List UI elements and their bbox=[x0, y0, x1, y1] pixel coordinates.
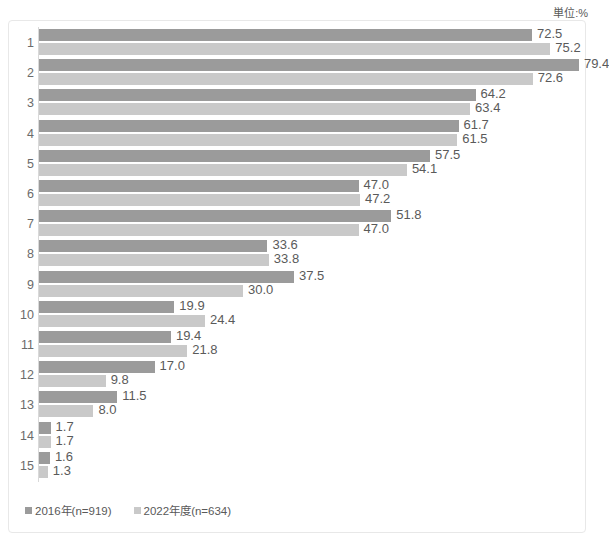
chart-row: 172.575.2 bbox=[9, 28, 587, 58]
bar-series-a[interactable] bbox=[39, 120, 459, 132]
bar-value-label: 47.0 bbox=[364, 179, 389, 191]
category-label: 1 bbox=[9, 28, 34, 58]
category-label: 2 bbox=[9, 58, 34, 88]
chart-row: 1119.421.8 bbox=[9, 330, 587, 360]
category-label: 8 bbox=[9, 239, 34, 269]
chart-row: 364.263.4 bbox=[9, 88, 587, 118]
category-label: 14 bbox=[9, 421, 34, 451]
bar-group: 79.472.6 bbox=[39, 58, 587, 88]
chart-row: 751.847.0 bbox=[9, 209, 587, 239]
bar-series-b[interactable] bbox=[39, 164, 407, 176]
category-label: 6 bbox=[9, 179, 34, 209]
bar-group: 1.71.7 bbox=[39, 421, 587, 451]
bar-series-a[interactable] bbox=[39, 150, 430, 162]
bar-series-b[interactable] bbox=[39, 254, 269, 266]
chart-legend: 2016年(n=919)2022年度(n=634) bbox=[25, 502, 231, 518]
chart-row: 279.472.6 bbox=[9, 58, 587, 88]
bar-series-a[interactable] bbox=[39, 180, 359, 192]
bar-group: 11.58.0 bbox=[39, 390, 587, 420]
bar-value-label: 54.1 bbox=[412, 163, 437, 175]
bar-value-label: 37.5 bbox=[299, 270, 324, 282]
bar-group: 33.633.8 bbox=[39, 239, 587, 269]
category-label: 9 bbox=[9, 270, 34, 300]
bar-series-b[interactable] bbox=[39, 194, 360, 206]
bar-value-label: 72.5 bbox=[537, 28, 562, 40]
bar-value-label: 1.6 bbox=[55, 451, 73, 463]
bar-series-b[interactable] bbox=[39, 224, 359, 236]
chart-row: 1019.924.4 bbox=[9, 300, 587, 330]
category-label: 13 bbox=[9, 390, 34, 420]
bar-value-label: 61.5 bbox=[462, 133, 487, 145]
bar-group: 72.575.2 bbox=[39, 28, 587, 58]
bar-series-b[interactable] bbox=[39, 103, 470, 115]
legend-label: 2022年度(n=634) bbox=[144, 502, 232, 518]
bar-series-a[interactable] bbox=[39, 210, 391, 222]
chart-row: 1311.58.0 bbox=[9, 390, 587, 420]
bar-series-a[interactable] bbox=[39, 361, 155, 373]
bar-group: 19.924.4 bbox=[39, 300, 587, 330]
bar-value-label: 1.7 bbox=[56, 421, 74, 433]
bar-value-label: 1.3 bbox=[53, 465, 71, 477]
bar-series-b[interactable] bbox=[39, 134, 457, 146]
bar-value-label: 47.0 bbox=[364, 223, 389, 235]
bar-series-a[interactable] bbox=[39, 422, 51, 434]
chart-row: 141.71.7 bbox=[9, 421, 587, 451]
chart-frame: 172.575.2279.472.6364.263.4461.761.5557.… bbox=[8, 20, 586, 533]
bar-group: 51.847.0 bbox=[39, 209, 587, 239]
bar-series-b[interactable] bbox=[39, 405, 93, 417]
category-label: 5 bbox=[9, 149, 34, 179]
bar-value-label: 19.9 bbox=[179, 300, 204, 312]
bar-series-a[interactable] bbox=[39, 240, 267, 252]
bar-series-b[interactable] bbox=[39, 315, 205, 327]
bar-series-a[interactable] bbox=[39, 331, 171, 343]
legend-swatch-icon bbox=[134, 507, 141, 514]
chart-row: 937.530.0 bbox=[9, 270, 587, 300]
bar-value-label: 75.2 bbox=[555, 42, 580, 54]
bar-value-label: 63.4 bbox=[475, 102, 500, 114]
bar-value-label: 19.4 bbox=[176, 330, 201, 342]
category-label: 10 bbox=[9, 300, 34, 330]
bar-group: 37.530.0 bbox=[39, 270, 587, 300]
bar-value-label: 64.2 bbox=[481, 88, 506, 100]
bar-series-b[interactable] bbox=[39, 285, 243, 297]
bar-value-label: 51.8 bbox=[396, 209, 421, 221]
category-label: 15 bbox=[9, 451, 34, 481]
bar-series-b[interactable] bbox=[39, 73, 533, 85]
bar-group: 57.554.1 bbox=[39, 149, 587, 179]
bar-series-b[interactable] bbox=[39, 345, 187, 357]
category-label: 3 bbox=[9, 88, 34, 118]
plot-area: 172.575.2279.472.6364.263.4461.761.5557.… bbox=[9, 21, 587, 488]
bar-group: 47.047.2 bbox=[39, 179, 587, 209]
bar-series-a[interactable] bbox=[39, 59, 579, 71]
chart-row: 647.047.2 bbox=[9, 179, 587, 209]
bar-value-label: 79.4 bbox=[584, 58, 609, 70]
bar-series-b[interactable] bbox=[39, 375, 106, 387]
legend-swatch-icon bbox=[25, 507, 32, 514]
bar-group: 19.421.8 bbox=[39, 330, 587, 360]
bar-series-a[interactable] bbox=[39, 89, 476, 101]
bar-series-b[interactable] bbox=[39, 43, 550, 55]
bar-value-label: 57.5 bbox=[435, 149, 460, 161]
bar-series-a[interactable] bbox=[39, 29, 532, 41]
legend-label: 2016年(n=919) bbox=[35, 502, 112, 518]
bar-series-a[interactable] bbox=[39, 452, 50, 464]
category-label: 7 bbox=[9, 209, 34, 239]
chart-row: 461.761.5 bbox=[9, 119, 587, 149]
bar-series-a[interactable] bbox=[39, 301, 174, 313]
chart-row: 1217.09.8 bbox=[9, 360, 587, 390]
unit-note: 単位:% bbox=[553, 4, 588, 20]
bar-series-a[interactable] bbox=[39, 271, 294, 283]
category-label: 4 bbox=[9, 119, 34, 149]
bar-group: 1.61.3 bbox=[39, 451, 587, 481]
bar-value-label: 17.0 bbox=[160, 360, 185, 372]
bar-value-label: 24.4 bbox=[210, 314, 235, 326]
legend-entry-series-a[interactable]: 2016年(n=919) bbox=[25, 502, 112, 518]
legend-entry-series-b[interactable]: 2022年度(n=634) bbox=[134, 502, 232, 518]
bar-series-b[interactable] bbox=[39, 466, 48, 478]
chart-row: 151.61.3 bbox=[9, 451, 587, 481]
category-label: 11 bbox=[9, 330, 34, 360]
bar-value-label: 61.7 bbox=[464, 119, 489, 131]
bar-value-label: 30.0 bbox=[248, 284, 273, 296]
bar-series-b[interactable] bbox=[39, 436, 51, 448]
bar-value-label: 47.2 bbox=[365, 193, 390, 205]
